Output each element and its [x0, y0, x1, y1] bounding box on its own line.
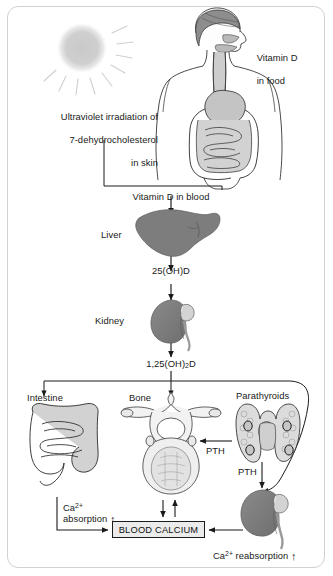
uv-line-2: 7-dehydrocholesterol: [69, 134, 158, 145]
uv-irradiation-label: Ultraviolet irradiation of 7-dehydrochol…: [16, 100, 158, 180]
calcitriol-suffix: D: [189, 358, 196, 369]
parathyroid-gland-icon: [236, 404, 300, 462]
calcitriol-label: 1,25(OH)2D: [126, 358, 216, 371]
pth-kidney-label: PTH: [238, 466, 257, 477]
kidney-icon: [151, 300, 194, 351]
calcium-reabsorption-label: Ca2+ reabsorption ↑: [213, 548, 297, 561]
bone-label: Bone: [129, 392, 151, 403]
food-to-blood-connector: [171, 186, 222, 190]
parathyroids-label: Parathyroids: [236, 390, 289, 401]
ca-absorption-charge: 2+: [75, 502, 83, 509]
vertebra-icon: [121, 392, 221, 494]
vitamin-d-food-label: Vitamin D in food: [246, 41, 298, 98]
calcidiol-label: 25(OH)D: [126, 265, 216, 276]
uv-line-3: in skin: [131, 157, 158, 168]
ca-absorption-ion: Ca: [63, 502, 75, 513]
liver-label: Liver: [101, 229, 122, 240]
vitamin-d-blood-label: Vitamin D in blood: [106, 191, 236, 202]
uv-line-1: Ultraviolet irradiation of: [61, 111, 158, 122]
ca-reabsorption-text: reabsorption: [236, 550, 289, 561]
intestine-label: Intestine: [27, 392, 63, 403]
increase-arrow-reabsorption: ↑: [291, 552, 297, 561]
ca-reabsorption-ion: Ca: [213, 550, 225, 561]
vitamin-d-food-line-1: Vitamin D: [257, 52, 298, 63]
calcium-absorption-label: Ca2+absorption ↑: [63, 500, 116, 525]
sun-icon: [44, 22, 133, 95]
figure-canvas: Ultraviolet irradiation of 7-dehydrochol…: [0, 0, 333, 576]
kidney-label: Kidney: [95, 315, 124, 326]
kidney-icon-lower: [241, 490, 288, 549]
blood-calcium-box: BLOOD CALCIUM: [112, 521, 205, 538]
liver-icon: [136, 210, 220, 257]
vitamin-d-food-line-2: in food: [257, 75, 286, 86]
ca-reabsorption-charge: 2+: [225, 550, 233, 557]
pth-bone-label: PTH: [206, 445, 225, 456]
human-torso-icon: [156, 8, 282, 189]
intestine-icon: [30, 403, 98, 485]
ca-absorption-text: absorption: [63, 513, 107, 524]
calcitriol-prefix: 1,25(OH): [146, 358, 185, 369]
